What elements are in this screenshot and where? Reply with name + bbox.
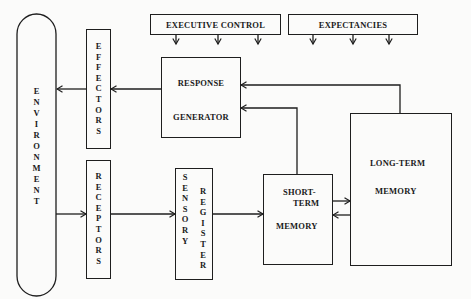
long-term-memory-box: LONG-TERM MEMORY — [350, 113, 452, 266]
stm-line2: TERM — [293, 198, 319, 208]
short-term-memory-box: SHORT- TERM MEMORY — [263, 174, 333, 265]
ltm-line2: MEMORY — [375, 186, 417, 196]
receptors-box: R E C E P T O R S — [86, 160, 111, 279]
letter: P — [96, 213, 101, 224]
expectancies-box: EXPECTANCIES — [288, 14, 418, 35]
register-label: R E G I S T E R — [196, 186, 210, 271]
letter: G — [200, 207, 207, 218]
letter: O — [182, 214, 189, 225]
letter: N — [182, 193, 188, 204]
letter: M — [32, 163, 40, 174]
letter: R — [182, 225, 188, 236]
letter: F — [96, 62, 101, 73]
letter: E — [96, 182, 102, 193]
letter: I — [35, 119, 38, 130]
letter: R — [95, 171, 101, 182]
letter: C — [95, 83, 101, 94]
letter: S — [201, 228, 206, 239]
effectors-box: E F F E C T O R S — [86, 29, 111, 149]
letter: R — [33, 130, 39, 141]
letter: E — [200, 197, 206, 208]
letter: E — [200, 250, 206, 261]
letter: E — [34, 174, 40, 185]
letter: E — [96, 203, 102, 214]
letter: R — [200, 260, 206, 271]
sensory-label: S E N S O R Y — [178, 172, 192, 246]
letter: T — [34, 196, 40, 207]
letter: T — [96, 94, 102, 105]
letter: Y — [182, 236, 188, 247]
letter: O — [95, 235, 102, 246]
letter: C — [95, 192, 101, 203]
environment-label: E N V I R O N M E N T — [17, 86, 56, 207]
executive-control-label: EXECUTIVE CONTROL — [166, 20, 265, 30]
letter: S — [96, 126, 101, 137]
effectors-label: E F F E C T O R S — [87, 30, 110, 136]
letter: V — [33, 108, 39, 119]
executive-control-box: EXECUTIVE CONTROL — [150, 14, 281, 35]
letter: N — [33, 152, 39, 163]
response-generator-line2: GENERATOR — [162, 112, 240, 122]
letter: T — [200, 239, 206, 250]
ltm-line1: LONG-TERM — [370, 158, 425, 168]
letter: F — [96, 52, 101, 63]
sensory-register-box: S E N S O R Y R E G I S T E R — [175, 168, 213, 280]
response-generator-box: RESPONSE GENERATOR — [161, 57, 241, 138]
letter: E — [96, 41, 102, 52]
letter: O — [33, 141, 40, 152]
letter: N — [33, 97, 39, 108]
letter: R — [95, 245, 101, 256]
letter: O — [95, 105, 102, 116]
letter: E — [182, 183, 188, 194]
letter: S — [183, 204, 188, 215]
letter: N — [33, 185, 39, 196]
letter: S — [96, 256, 101, 267]
letter: T — [96, 224, 102, 235]
letter: E — [34, 86, 40, 97]
letter: R — [200, 186, 206, 197]
expectancies-label: EXPECTANCIES — [319, 20, 387, 30]
receptors-label: R E C E P T O R S — [87, 161, 110, 266]
letter: R — [95, 115, 101, 126]
letter: E — [96, 73, 102, 84]
stm-line3: MEMORY — [276, 221, 318, 231]
stm-line1: SHORT- — [283, 187, 316, 197]
letter: S — [183, 172, 188, 183]
response-generator-line1: RESPONSE — [162, 78, 240, 88]
letter: I — [201, 218, 204, 229]
